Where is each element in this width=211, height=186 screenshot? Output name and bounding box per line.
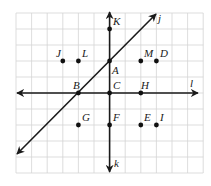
point-label-L: L	[81, 47, 88, 59]
point-B	[76, 91, 81, 96]
point-F	[107, 123, 112, 128]
point-L	[76, 59, 81, 64]
point-M	[138, 59, 143, 64]
point-E	[138, 123, 143, 128]
point-label-F: F	[112, 111, 120, 123]
point-label-K: K	[112, 15, 121, 27]
point-label-H: H	[140, 79, 150, 91]
points-group: KJLAMDBCHGFEI	[56, 15, 168, 127]
point-label-M: M	[143, 47, 154, 59]
point-label-J: J	[56, 47, 62, 59]
coordinate-grid-diagram: jkl KJLAMDBCHGFEI	[0, 0, 211, 186]
point-label-C: C	[113, 79, 121, 91]
point-label-A: A	[111, 64, 119, 76]
point-H	[138, 91, 143, 96]
point-J	[60, 59, 65, 64]
point-I	[154, 123, 159, 128]
line-j	[17, 14, 156, 154]
point-D	[154, 59, 159, 64]
line-label-l: l	[190, 77, 193, 89]
point-label-E: E	[143, 111, 151, 123]
point-label-I: I	[159, 111, 165, 123]
point-K	[107, 27, 112, 32]
point-label-B: B	[73, 79, 80, 91]
point-A	[107, 59, 112, 64]
line-label-k: k	[114, 157, 120, 169]
point-C	[107, 91, 112, 96]
point-label-G: G	[82, 111, 90, 123]
point-label-D: D	[159, 47, 168, 59]
point-G	[76, 123, 81, 128]
